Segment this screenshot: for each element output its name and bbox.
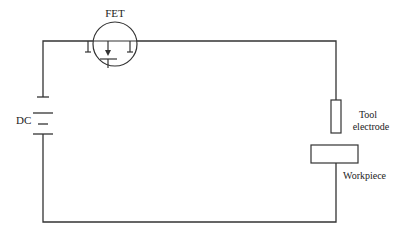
workpiece-rect <box>311 145 358 163</box>
tool-electrode-rect <box>331 100 341 133</box>
tool-label-line1: Tool <box>359 109 377 120</box>
circuit-wires <box>43 41 336 222</box>
wire-top-left <box>43 41 93 97</box>
dc-label: DC <box>16 114 31 126</box>
wire-bottom <box>43 134 336 222</box>
fet-arrow-head <box>105 50 111 56</box>
tool-label-line2: electrode <box>353 121 390 132</box>
circuit-diagram: FET DC Tool electrode Workpiece <box>0 0 410 236</box>
fet-label: FET <box>105 7 125 19</box>
dc-battery-symbol <box>33 97 53 134</box>
workpiece-label: Workpiece <box>343 170 387 181</box>
fet-symbol <box>85 22 137 68</box>
wire-top-right <box>137 41 336 100</box>
circuit-svg: FET DC Tool electrode Workpiece <box>0 0 410 236</box>
